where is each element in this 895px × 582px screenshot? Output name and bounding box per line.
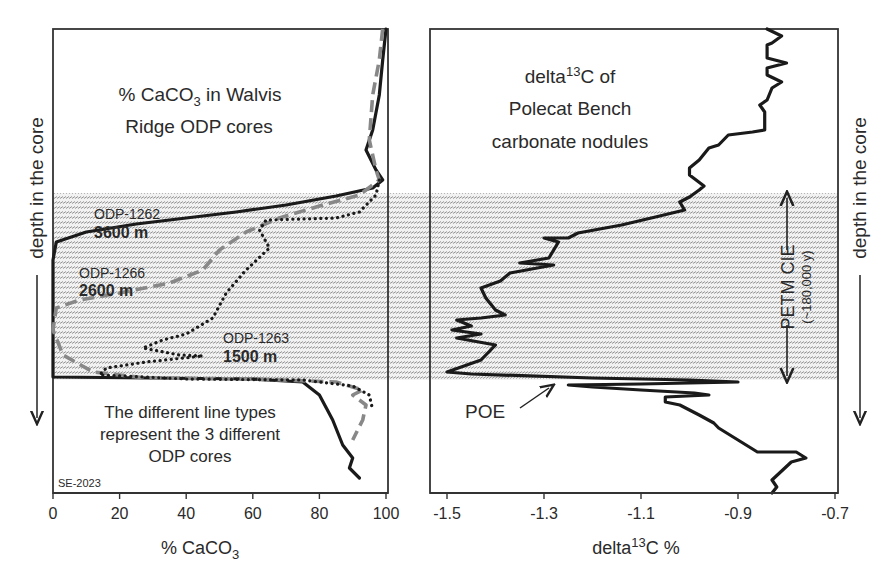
credit-label: SE-2023 (58, 477, 101, 489)
petm-cie-label: PETM CIE (778, 244, 798, 329)
left-depth-axis: depth in the core (26, 117, 47, 418)
x-tick-label: -0.9 (724, 505, 752, 522)
poe-label: POE (465, 401, 505, 422)
label-odp-1266-depth: 2600 m (79, 282, 133, 299)
label-odp-1263-depth: 1500 m (223, 348, 277, 365)
right-x-axis: -1.5-1.3-1.1-0.9-0.7 (430, 493, 849, 522)
x-tick-label: 60 (244, 505, 262, 522)
left-title-line2: Ridge ODP cores (125, 116, 273, 137)
right-title-line2: Polecat Bench (509, 98, 632, 119)
poe-arrow (520, 388, 549, 408)
legend-note-line1: The different line types (104, 403, 276, 422)
legend-note-line2: represent the 3 different (100, 425, 280, 444)
x-tick-label: 100 (373, 505, 400, 522)
x-tick-label: -1.1 (627, 505, 655, 522)
label-odp-1262: ODP-1262 (94, 206, 160, 222)
right-x-axis-label: delta13C % (592, 535, 680, 558)
right-title-line3: carbonate nodules (492, 131, 648, 152)
left-x-axis: 020406080100 (49, 493, 400, 522)
label-odp-1263: ODP-1263 (223, 330, 289, 346)
x-tick-label: -0.7 (821, 505, 849, 522)
label-odp-1262-depth: 3600 m (94, 224, 148, 241)
x-tick-label: -1.5 (433, 505, 461, 522)
x-tick-label: 40 (177, 505, 195, 522)
left-x-axis-label: % CaCO3 (161, 538, 239, 562)
right-depth-label: depth in the core (849, 117, 870, 259)
label-odp-1266: ODP-1266 (79, 265, 145, 281)
left-title: % CaCO3 in Walvis (119, 84, 282, 109)
left-depth-label: depth in the core (26, 117, 47, 259)
legend-note-line3: ODP cores (149, 447, 232, 466)
x-tick-label: 80 (311, 505, 329, 522)
x-tick-label: 20 (111, 505, 129, 522)
paleoclimate-figure: % CaCO3 in Walvis Ridge ODP cores ODP-12… (0, 0, 895, 582)
right-depth-axis: depth in the core (849, 117, 870, 418)
x-tick-label: -1.3 (530, 505, 558, 522)
right-title: delta13C of (525, 64, 616, 87)
petm-duration-label: (~180,000 y) (799, 250, 814, 323)
x-tick-label: 0 (49, 505, 58, 522)
